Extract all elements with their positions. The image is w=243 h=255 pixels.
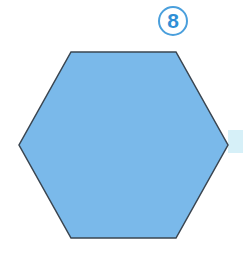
- hexagon-figure: [0, 0, 243, 255]
- number-badge: 8: [158, 6, 188, 36]
- hexagon-shape: [19, 52, 228, 238]
- badge-number: 8: [167, 9, 179, 33]
